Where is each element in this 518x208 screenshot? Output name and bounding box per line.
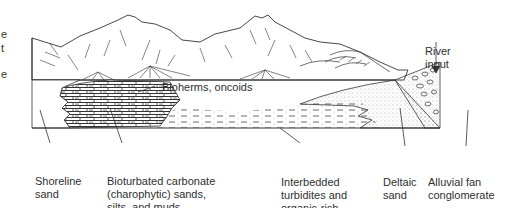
label-river-input: Riverinput	[425, 19, 451, 84]
label-alluvial-fan-conglomerate: Alluvial fanconglomerate	[428, 150, 495, 208]
svg-text:e: e	[1, 28, 7, 40]
label-interbedded-turbidites: Interbeddedturbidites andorganic-rich,li…	[281, 150, 357, 208]
label-bioturbated-carbonate: Bioturbated carbonate(charophytic) sands…	[107, 149, 215, 208]
label-bioherms-oncoids: Bioherms, oncoids	[162, 81, 253, 94]
svg-text:t: t	[1, 42, 4, 54]
mountains	[32, 15, 408, 80]
svg-text:e: e	[1, 68, 7, 80]
label-deltaic-sand: Deltaicsand	[383, 150, 417, 208]
label-shoreline-sand: Shorelinesand	[35, 149, 81, 208]
cropped-left-text: e t e	[1, 28, 7, 80]
